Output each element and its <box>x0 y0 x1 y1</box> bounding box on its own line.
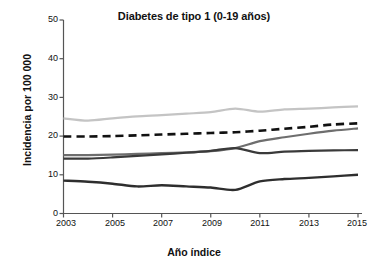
series-line-series-dark-gray <box>64 148 359 159</box>
chart-figure: Diabetes de tipo 1 (0-19 años) Incidenci… <box>0 0 388 264</box>
series-line-series-bottom-dark <box>64 175 359 190</box>
series-line-series-dashed-black <box>64 123 359 136</box>
x-tick-marks <box>64 214 359 218</box>
series-line-series-light-gray <box>64 106 359 120</box>
axis-lines <box>64 20 363 214</box>
plot-area <box>0 0 388 264</box>
data-series-group <box>64 106 359 190</box>
